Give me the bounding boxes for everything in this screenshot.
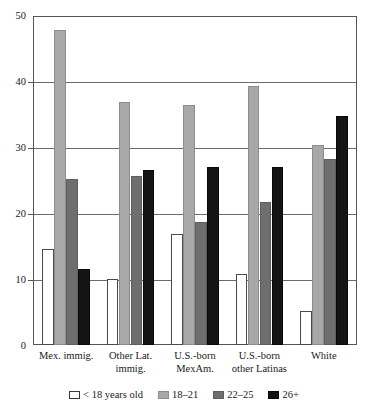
- y-tick-label-10: 10: [16, 275, 27, 286]
- x-axis-label: Mex. immig.: [34, 349, 98, 362]
- bar: [195, 222, 207, 345]
- chart-legend: < 18 years old18–2122–2526+: [0, 390, 368, 401]
- bar: [183, 105, 195, 345]
- bar-groups: [34, 17, 356, 345]
- bar: [236, 274, 248, 345]
- bar: [119, 102, 131, 345]
- legend-swatch-18-21: [158, 391, 169, 399]
- bar: [324, 159, 336, 345]
- legend-label: 18–21: [172, 390, 198, 401]
- bar: [54, 30, 66, 345]
- bar: [312, 145, 324, 345]
- bar: [78, 269, 90, 345]
- bar: [248, 86, 260, 345]
- legend-swatch-26-plus: [268, 391, 279, 399]
- legend-swatch-under-18: [69, 391, 80, 399]
- bar: [171, 234, 183, 345]
- y-tick-label-0: 0: [21, 341, 26, 352]
- bar: [300, 311, 312, 345]
- bar-group: [292, 17, 356, 345]
- bar: [131, 176, 143, 345]
- legend-item[interactable]: 18–21: [158, 390, 198, 401]
- x-axis-label: U.S.-born other Latinas: [227, 349, 291, 375]
- bar-group: [227, 17, 291, 345]
- legend-item[interactable]: 26+: [268, 390, 298, 401]
- y-tick-label-40: 40: [16, 77, 27, 88]
- legend-item[interactable]: < 18 years old: [69, 390, 143, 401]
- legend-swatch-22-25: [213, 391, 224, 399]
- bar-group: [34, 17, 98, 345]
- legend-label: < 18 years old: [83, 390, 143, 401]
- legend-item[interactable]: 22–25: [213, 390, 253, 401]
- x-axis-label: White: [292, 349, 356, 362]
- y-axis-labels: 50 40 30 20 10 0: [0, 0, 30, 411]
- x-axis-labels: Mex. immig.Other Lat. immig.U.S.-born Me…: [34, 349, 356, 389]
- y-tick-label-30: 30: [16, 143, 27, 154]
- bar: [272, 167, 284, 345]
- bar: [42, 249, 54, 345]
- legend-label: 22–25: [227, 390, 253, 401]
- y-tick-label-50: 50: [16, 11, 27, 22]
- x-axis-label: U.S.-born MexAm.: [163, 349, 227, 375]
- bar: [207, 167, 219, 345]
- bar-chart: 50 40 30 20 10 0 Mex. immig.Other Lat. i…: [0, 0, 368, 411]
- legend-label: 26+: [282, 390, 298, 401]
- bar: [336, 116, 348, 345]
- bar-group: [98, 17, 162, 345]
- bar: [260, 202, 272, 345]
- x-axis-label: Other Lat. immig.: [98, 349, 162, 375]
- bar: [66, 179, 78, 345]
- y-tick-label-20: 20: [16, 209, 27, 220]
- bar-group: [163, 17, 227, 345]
- bar: [107, 279, 119, 345]
- bar: [143, 170, 155, 345]
